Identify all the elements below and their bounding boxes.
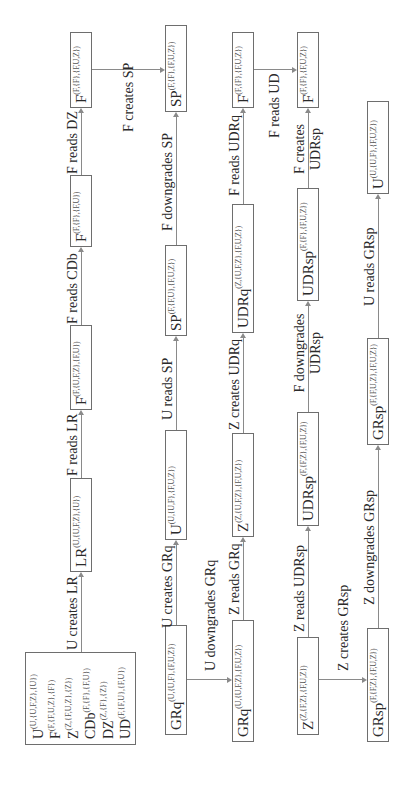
label-z-creates-udrq: Z creates UDRq — [228, 339, 242, 430]
arrow-head — [362, 677, 367, 683]
label-u-reads-sp: U reads SP — [161, 358, 175, 420]
edge-u-reads-grsp — [378, 198, 379, 338]
node-sp1: SP(F,{F},{F,U,Z}) — [165, 25, 187, 112]
node-f1: F(F,{U,F,Z},{F,U}) — [70, 325, 92, 410]
arrow-head — [305, 301, 311, 306]
node-udrsp1: UDRsp(F,{F},{F,U,Z}) — [297, 188, 319, 301]
edge-f-reads-ud — [254, 69, 293, 70]
node-u2: U(U,{U,F},{F,U,Z}) — [367, 101, 389, 194]
initial-z: Z(Z,{F,U,Z},{Z}) — [65, 658, 83, 739]
node-udrq: UDRq(Z,{U,F,Z},{F,U,Z}) — [232, 204, 254, 333]
label-f-reads-ud: F reads UD — [268, 73, 282, 138]
edge-u-downgrades-grq — [187, 679, 228, 680]
initial-cdb: CDb(F,{F},{F,U}) — [83, 658, 101, 739]
edge-f-reads-cdb — [81, 251, 82, 325]
information-flow-diagram: U(U,{U,F,Z},{U}) F(F,{F,U,Z},{F}) Z(Z,{F… — [0, 0, 406, 790]
edge-f-reads-dz — [81, 112, 82, 175]
label-u-downgrades-grq: U downgrades GRq — [204, 560, 218, 671]
edge-u-creates-grq — [176, 544, 177, 625]
label-f-creates-udrsp: F createsUDRsp — [292, 116, 324, 182]
edge-u-reads-sp — [176, 340, 177, 430]
label-f-reads-dz: F reads DZ — [66, 111, 80, 174]
node-f4: F(F,{F},{F,U,Z}) — [232, 32, 254, 108]
node-f2: F(F,{F},{F,U}) — [70, 175, 92, 247]
node-f5: F(F,{F},{F,U,Z}) — [297, 32, 319, 108]
arrow-head — [173, 336, 179, 341]
node-udrsp2: UDRsp(F,{F,Z},{F,U,Z}) — [297, 412, 319, 526]
edge-f-downgrades-sp — [176, 116, 177, 245]
arrow-head — [78, 247, 84, 252]
edge-z-creates-udrq — [243, 337, 244, 433]
label-u-reads-grsp: U reads GRsp — [363, 227, 377, 306]
edge-f-reads-udrq — [243, 112, 244, 204]
node-u1: U(U,{U,F},{F,U,Z}) — [165, 430, 187, 540]
initial-state-box: U(U,{U,F,Z},{U}) F(F,{F,U,Z},{F}) Z(Z,{F… — [25, 652, 136, 745]
label-f-downgrades-udrsp: F downgradesUDRsp — [292, 308, 324, 398]
arrow-head — [375, 194, 381, 199]
label-f-reads-udrq: F reads UDRq — [228, 115, 242, 196]
label-f-creates-sp: F creates SP — [122, 63, 136, 132]
label-z-reads-udrsp: Z reads UDRsp — [293, 545, 307, 632]
arrow-head — [292, 67, 297, 73]
initial-u: U(U,{U,F,Z},{U}) — [30, 658, 48, 739]
arrow-head — [375, 445, 381, 450]
node-f3: F(F,{F},{F,U,Z}) — [70, 32, 92, 108]
edge-u-creates-lr — [81, 576, 82, 652]
label-z-downgrades-grsp: Z downgrades GRsp — [363, 490, 377, 605]
label-f-reads-lr: F reads LR — [66, 414, 80, 476]
label-u-creates-lr: U creates LR — [66, 576, 80, 650]
initial-f: F(F,{F,U,Z},{F}) — [48, 658, 66, 739]
initial-ud: UD(F,{F,U},{F,U}) — [118, 658, 136, 739]
arrow-head — [240, 108, 246, 113]
node-z2: Z(Z,{F,Z},{F,U,Z}) — [297, 637, 319, 735]
node-lr: LR(U,{U,F,Z},{U}) — [70, 478, 92, 572]
node-grq1: GRq(U,{U,F},{F,U,Z}) — [165, 625, 187, 735]
node-grsp2: GRsp(F,{F,U,Z},{F,U,Z}) — [367, 338, 389, 445]
arrow-head — [227, 677, 232, 683]
arrow-head — [240, 333, 246, 338]
arrow-head — [240, 537, 246, 542]
label-u-creates-grq: U creates GRq — [161, 546, 175, 628]
edge-z-reads-grq — [243, 541, 244, 620]
arrow-head — [173, 540, 179, 545]
label-f-reads-cdb: F reads CDb — [66, 253, 80, 324]
label-z-reads-grq: Z reads GRq — [228, 543, 242, 615]
arrow-head — [173, 112, 179, 117]
initial-dz: DZ(Z,{F},{Z}) — [100, 658, 118, 739]
arrow-head — [305, 108, 311, 113]
edge-z-reads-udrsp — [308, 530, 309, 637]
edge-z-creates-grsp — [319, 679, 363, 680]
label-z-creates-grsp: Z creates GRsp — [337, 585, 351, 671]
arrow-head — [160, 67, 165, 73]
edge-f-reads-lr — [81, 414, 82, 478]
label-f-downgrades-sp: F downgrades SP — [161, 133, 175, 231]
node-grq2: GRq(U,{U,F,Z},{F,U,Z}) — [232, 620, 254, 742]
edge-z-downgrades-grsp — [378, 449, 379, 628]
node-z1: Z(Z,{U,F,Z},{F,U,Z}) — [232, 433, 254, 537]
arrow-head — [305, 526, 311, 531]
node-grsp1: GRsp(F,{F,Z},{F,U,Z}) — [367, 628, 389, 742]
node-sp2: SP(F,{F,U},{F,U,Z}) — [165, 245, 187, 336]
